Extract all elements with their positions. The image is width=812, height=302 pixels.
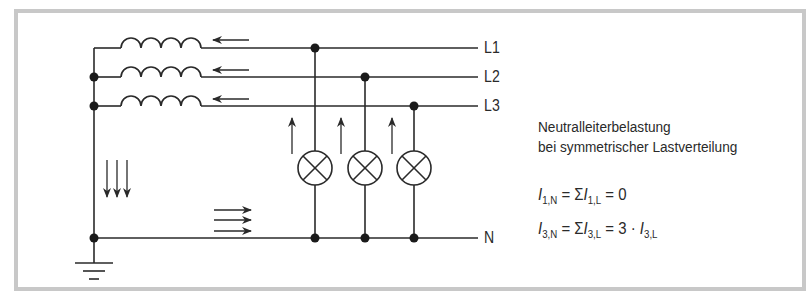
caption-line-1: Neutralleiterbelastung [538, 117, 737, 137]
formula-sub: 3,L [588, 228, 601, 240]
formula-op: = 3 · [601, 219, 640, 238]
formula-sub: 1,N [542, 194, 557, 206]
formula-third-harmonic: I3,N = ΣI3,L = 3 · I3,L [538, 219, 657, 240]
lamp-3 [397, 151, 431, 185]
formula-op: = Σ [557, 219, 583, 238]
caption-line-2: bei symmetrischer Lastverteilung [538, 137, 737, 157]
label-n: N [484, 229, 494, 247]
formula-first-harmonic: I1,N = ΣI1,L = 0 [538, 185, 627, 206]
coil-l1 [121, 38, 201, 48]
conductor-l1 [94, 38, 478, 48]
ground-icon [75, 263, 113, 279]
junction-dots [90, 44, 419, 243]
coil-l2 [121, 67, 201, 77]
formula-op: = Σ [557, 185, 583, 204]
conductor-l3 [94, 96, 478, 106]
formula-sub: 1,L [588, 194, 601, 206]
label-l3: L3 [484, 97, 500, 115]
coil-l3 [121, 96, 201, 106]
formula-op: = 0 [601, 185, 626, 204]
formula-sub: 3,N [542, 228, 557, 240]
conductor-l2 [94, 67, 478, 77]
formula-sub: 3,L [644, 228, 657, 240]
label-l1: L1 [484, 39, 500, 57]
lamp-2 [348, 151, 382, 185]
label-l2: L2 [484, 68, 500, 86]
lamp-1 [298, 151, 332, 185]
diagram-caption: Neutralleiterbelastung bei symmetrischer… [538, 117, 737, 157]
